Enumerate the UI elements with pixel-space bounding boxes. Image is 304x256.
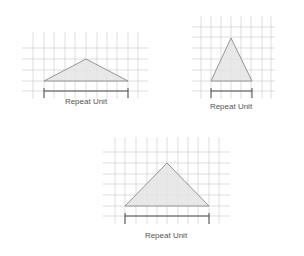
triangle-shape (211, 38, 252, 81)
figure-tall-narrow-triangle: Repeat Unit (192, 16, 275, 111)
triangle-shape (125, 163, 209, 206)
repeat-unit-label: Repeat Unit (65, 97, 108, 106)
figure-wide-low-triangle: Repeat Unit (22, 32, 148, 106)
figure-large-triangle: Repeat Unit (103, 137, 230, 240)
repeat-unit-label: Repeat Unit (210, 102, 253, 111)
repeat-unit-label: Repeat Unit (145, 231, 188, 240)
diagram-canvas: Repeat Unit Repeat Unit Repeat Unit (0, 0, 304, 256)
repeat-unit-bracket (211, 88, 252, 98)
